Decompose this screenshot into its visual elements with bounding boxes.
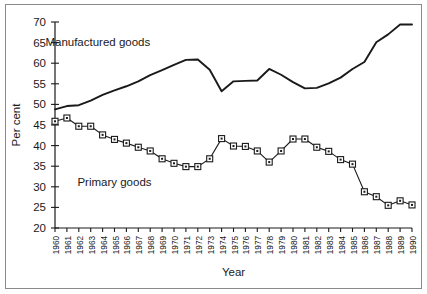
data-point-center: [197, 166, 199, 168]
y-tick-label: 20: [33, 222, 46, 234]
x-tick-label: 1965: [112, 236, 121, 255]
data-point-center: [280, 150, 282, 152]
series-label-1: Primary goods: [77, 176, 151, 188]
y-tick-label: 30: [33, 181, 46, 193]
data-point-center: [185, 166, 187, 168]
x-tick-label: 1962: [76, 236, 85, 255]
y-tick-label: 40: [33, 140, 46, 152]
y-tick-label: 35: [33, 160, 46, 172]
x-tick-label: 1971: [183, 236, 192, 255]
data-point-center: [304, 138, 306, 140]
y-tick-label: 25: [33, 201, 46, 213]
data-point-center: [399, 200, 401, 202]
data-point-center: [149, 150, 151, 152]
series-line-1: [55, 118, 412, 205]
data-point-center: [411, 204, 413, 206]
x-tick-label: 1990: [409, 236, 418, 255]
y-tick-label: 55: [33, 78, 46, 90]
x-axis-title: Year: [222, 266, 245, 278]
data-point-center: [161, 158, 163, 160]
data-point-center: [114, 138, 116, 140]
y-tick-label: 50: [33, 98, 46, 110]
data-point-center: [78, 125, 80, 127]
line-chart: 2025303540455055606570Per cent1960196119…: [0, 0, 427, 294]
data-point-center: [244, 145, 246, 147]
chart-figure: 2025303540455055606570Per cent1960196119…: [0, 0, 427, 294]
data-point-center: [125, 142, 127, 144]
x-tick-label: 1982: [314, 236, 323, 255]
x-tick-label: 1963: [88, 236, 97, 255]
x-tick-label: 1972: [195, 236, 204, 255]
x-tick-label: 1987: [373, 236, 382, 255]
x-tick-label: 1986: [361, 236, 370, 255]
data-point-center: [292, 138, 294, 140]
series-label-0: Manufactured goods: [45, 36, 150, 48]
x-tick-label: 1976: [242, 236, 251, 255]
x-tick-label: 1984: [338, 236, 347, 255]
data-point-center: [221, 138, 223, 140]
data-point-center: [256, 150, 258, 152]
data-point-center: [90, 125, 92, 127]
data-point-center: [340, 159, 342, 161]
data-point-center: [66, 117, 68, 119]
data-point-center: [233, 145, 235, 147]
data-point-center: [268, 161, 270, 163]
x-tick-label: 1967: [135, 236, 144, 255]
data-point-center: [173, 162, 175, 164]
x-tick-label: 1977: [254, 236, 263, 255]
x-tick-label: 1964: [100, 236, 109, 255]
data-point-center: [102, 134, 104, 136]
y-axis-title: Per cent: [10, 103, 22, 147]
data-point-center: [137, 146, 139, 148]
data-point-center: [363, 191, 365, 193]
data-point-center: [209, 158, 211, 160]
x-tick-label: 1983: [326, 236, 335, 255]
x-tick-label: 1966: [123, 236, 132, 255]
x-tick-label: 1970: [171, 236, 180, 255]
y-tick-label: 60: [33, 57, 46, 69]
x-tick-label: 1973: [207, 236, 216, 255]
y-tick-label: 70: [33, 16, 46, 28]
data-point-center: [352, 163, 354, 165]
data-point-center: [316, 146, 318, 148]
x-tick-label: 1988: [385, 236, 394, 255]
x-tick-label: 1974: [219, 236, 228, 255]
x-tick-label: 1979: [278, 236, 287, 255]
x-tick-label: 1978: [266, 236, 275, 255]
data-point-center: [54, 120, 56, 122]
x-tick-label: 1989: [397, 236, 406, 255]
y-tick-label: 45: [33, 119, 46, 131]
x-tick-label: 1980: [290, 236, 299, 255]
x-tick-label: 1968: [147, 236, 156, 255]
x-tick-label: 1975: [231, 236, 240, 255]
data-point-center: [375, 196, 377, 198]
y-tick-label: 65: [33, 37, 46, 49]
x-tick-label: 1960: [52, 236, 61, 255]
data-point-center: [387, 204, 389, 206]
data-point-center: [328, 150, 330, 152]
x-tick-label: 1969: [159, 236, 168, 255]
x-tick-label: 1961: [64, 236, 73, 255]
x-tick-label: 1981: [302, 236, 311, 255]
x-tick-label: 1985: [350, 236, 359, 255]
